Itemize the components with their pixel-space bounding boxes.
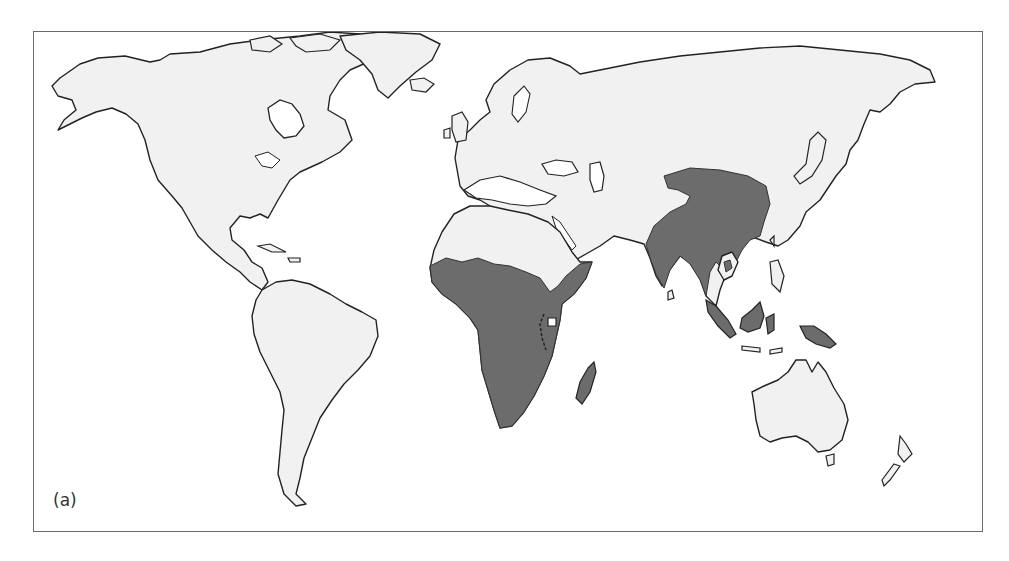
north-america bbox=[52, 32, 372, 290]
new-zealand bbox=[898, 436, 912, 462]
world-map bbox=[0, 0, 1009, 561]
australia bbox=[752, 360, 848, 452]
range-sub-saharan-africa bbox=[430, 258, 592, 428]
range-sumatra bbox=[706, 300, 736, 338]
range-madagascar bbox=[576, 362, 596, 404]
panel-label: (a) bbox=[53, 490, 77, 510]
range-borneo bbox=[740, 302, 764, 332]
south-america bbox=[252, 280, 378, 506]
range-sulawesi bbox=[766, 314, 774, 334]
range-new-guinea bbox=[800, 326, 836, 348]
